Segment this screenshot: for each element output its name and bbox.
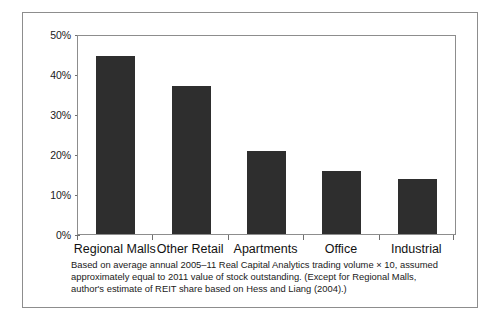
y-tick-label: 20%: [50, 149, 71, 161]
y-tick-label: 40%: [50, 69, 71, 81]
x-tick-mark: [77, 235, 78, 240]
bar: [96, 56, 135, 234]
x-axis-category-label: Industrial: [391, 242, 442, 256]
bar-chart: 0%10%20%30%40%50% Regional MallsOther Re…: [23, 13, 479, 245]
figure-caption: Based on average annual 2005–11 Real Cap…: [71, 259, 443, 296]
plot-area: [77, 35, 456, 235]
bars-layer: [78, 36, 455, 234]
figure-frame: 0%10%20%30%40%50% Regional MallsOther Re…: [22, 12, 478, 308]
x-tick-mark: [228, 235, 229, 240]
x-tick-mark: [379, 235, 380, 240]
x-tick-mark: [303, 235, 304, 240]
y-tick-label: 30%: [50, 109, 71, 121]
bar: [172, 86, 211, 235]
bar: [322, 171, 361, 234]
y-tick-label: 10%: [50, 189, 71, 201]
y-axis: 0%10%20%30%40%50%: [31, 27, 71, 229]
y-tick-label: 0%: [56, 229, 71, 241]
x-axis-category-label: Apartments: [234, 242, 298, 256]
x-tick-mark: [152, 235, 153, 240]
y-tick-label: 50%: [50, 29, 71, 41]
x-axis-category-label: Office: [325, 242, 357, 256]
x-axis-ticks: [77, 235, 456, 241]
x-axis-category-label: Other Retail: [157, 242, 224, 256]
bar: [247, 151, 286, 234]
x-axis-category-label: Regional Malls: [74, 242, 156, 256]
bar: [398, 179, 437, 234]
x-tick-mark: [453, 235, 454, 240]
